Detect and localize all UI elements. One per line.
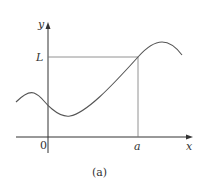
- x-axis-label: x: [186, 140, 193, 153]
- point-a-label: a: [134, 140, 141, 153]
- y-axis-arrow-icon: [46, 22, 51, 29]
- figure-caption: (a): [92, 166, 107, 179]
- limit-diagram: y L 0 a x (a): [0, 0, 208, 179]
- limit-L-label: L: [35, 51, 43, 64]
- x-axis-arrow-icon: [186, 135, 193, 140]
- y-axis-label: y: [37, 18, 45, 31]
- origin-label: 0: [40, 139, 47, 152]
